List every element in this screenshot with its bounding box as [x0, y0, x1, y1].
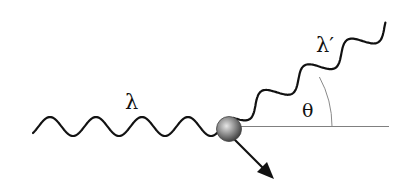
incident-wavelength-label: λ	[125, 90, 138, 114]
scattered-wavelength-label: λ′	[316, 33, 334, 57]
recoil-arrow-shaft	[234, 139, 264, 169]
diagram-canvas: λ λ′ θ	[0, 0, 417, 196]
electron-ball	[217, 117, 242, 142]
angle-arc	[319, 77, 332, 127]
incident-photon-wave	[33, 117, 217, 136]
scattering-angle-label: θ	[302, 99, 313, 121]
compton-scattering-diagram: λ λ′ θ	[0, 0, 417, 196]
